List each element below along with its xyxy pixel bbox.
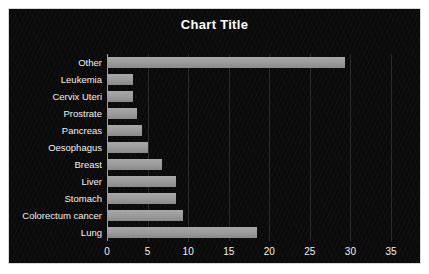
category-label: Cervix Uteri [52,89,102,104]
x-tick-label: 5 [145,246,151,257]
bar-row: Stomach [107,190,391,207]
category-label: Lung [81,225,102,240]
bar [107,74,133,85]
category-label: Pancreas [62,123,102,138]
x-tick-label: 10 [183,246,194,257]
bar-row: Other [107,54,391,71]
category-label: Leukemia [61,72,102,87]
bar-row: Pancreas [107,122,391,139]
gridline-35 [391,54,392,241]
x-tick-label: 20 [264,246,275,257]
bar [107,91,133,102]
x-tick-label: 0 [104,246,110,257]
bar-row: Oesophagus [107,139,391,156]
bar-row: Breast [107,156,391,173]
bar [107,159,162,170]
bar [107,57,345,68]
category-label: Liver [81,174,102,189]
bar [107,176,176,187]
bar-row: Prostrate [107,105,391,122]
bar-row: Leukemia [107,71,391,88]
bar-row: Cervix Uteri [107,88,391,105]
bar [107,227,257,238]
bar [107,210,183,221]
bar [107,142,148,153]
category-label: Other [78,55,102,70]
category-label: Breast [75,157,102,172]
chart-title: Chart Title [9,17,420,32]
bar [107,108,137,119]
bar-row: Colorectum cancer [107,207,391,224]
category-label: Colorectum cancer [22,208,102,223]
bar [107,193,176,204]
x-tick-label: 25 [304,246,315,257]
chart-frame: Chart Title OtherLeukemiaCervix UteriPro… [8,8,421,264]
bar-row: Liver [107,173,391,190]
x-tick-label: 30 [345,246,356,257]
x-tick-label: 35 [385,246,396,257]
plot-area: OtherLeukemiaCervix UteriProstratePancre… [107,54,391,241]
bar [107,125,142,136]
category-label: Oesophagus [48,140,102,155]
bar-row: Lung [107,224,391,241]
category-label: Prostrate [63,106,102,121]
x-tick-label: 15 [223,246,234,257]
category-label: Stomach [65,191,103,206]
